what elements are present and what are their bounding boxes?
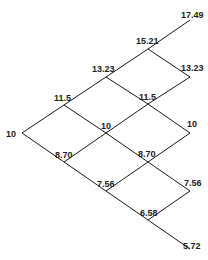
tree-edge — [106, 104, 148, 133]
node-labels: 1011.58.7013.23107.5615.2111.58.706.5817… — [6, 10, 204, 251]
node-value-label: 17.49 — [181, 10, 204, 20]
tree-edge — [64, 105, 106, 133]
binomial-tree-diagram: 1011.58.7013.23107.5615.2111.58.706.5817… — [0, 0, 208, 260]
node-value-label: 10 — [187, 119, 197, 129]
tree-edge — [22, 105, 64, 133]
node-value-label: 13.23 — [92, 64, 115, 74]
node-value-label: 7.56 — [184, 178, 202, 188]
node-value-label: 7.56 — [97, 179, 115, 189]
node-value-label: 11.5 — [139, 92, 156, 102]
tree-edges — [22, 20, 190, 249]
node-value-label: 10 — [6, 129, 16, 139]
node-value-label: 11.5 — [54, 93, 71, 103]
tree-edge — [148, 104, 190, 133]
node-value-label: 10 — [101, 121, 111, 131]
node-value-label: 13.23 — [181, 63, 204, 73]
node-value-label: 15.21 — [136, 36, 159, 46]
node-value-label: 8.70 — [138, 149, 156, 159]
node-value-label: 6.58 — [140, 208, 158, 218]
node-value-label: 5.72 — [183, 241, 201, 251]
node-value-label: 8.70 — [55, 150, 73, 160]
